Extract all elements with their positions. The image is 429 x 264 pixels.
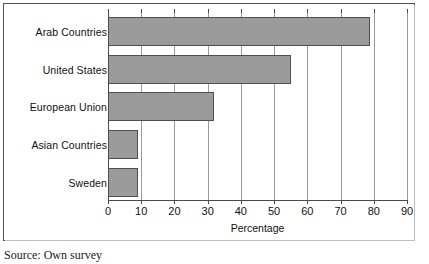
gridline-80 [374,13,375,200]
tick-top-70 [341,9,342,13]
bar-european-union [108,92,214,121]
tick-top-40 [241,9,242,13]
figure-frame: Arab Countries United States European Un… [3,3,415,241]
gridline-90 [407,13,408,200]
tick-top-90 [407,9,408,13]
x-axis-title: Percentage [108,222,407,234]
tick-top-50 [274,9,275,13]
tick-bottom-90 [407,200,408,204]
bar-united-states [108,55,291,84]
tick-top-10 [141,9,142,13]
bar-chart: Arab Countries United States European Un… [4,4,416,242]
bar-sweden [108,168,138,197]
bar-asian-countries [108,130,138,159]
tick-top-80 [374,9,375,13]
y-axis-label-2: European Union [0,101,107,113]
y-axis-label-3: Asian Countries [0,139,107,151]
y-axis-label-4: Sweden [0,177,107,189]
tick-top-30 [208,9,209,13]
y-axis-label-1: United States [0,64,107,76]
tick-top-60 [307,9,308,13]
source-caption: Source: Own survey [4,248,102,263]
tick-top-0 [108,9,109,13]
y-axis-label-0: Arab Countries [0,26,107,38]
bar-arab-countries [108,17,370,46]
x-tick-label-90: 90 [387,205,427,217]
tick-top-20 [174,9,175,13]
x-axis-line [108,200,407,201]
